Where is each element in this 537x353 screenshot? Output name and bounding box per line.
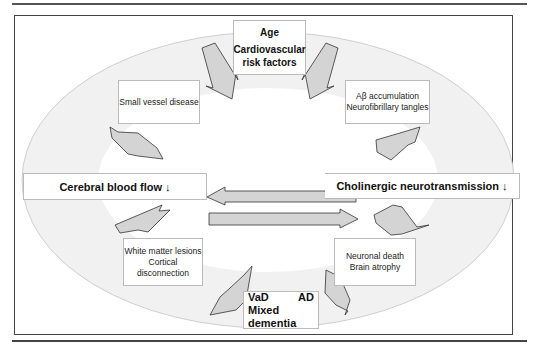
mixed-dementia-label: Mixed dementia [248,304,314,330]
ad-label: AD [298,291,314,304]
bottom-rule [12,340,527,342]
dementia-box: VaD AD Mixed dementia [243,291,319,329]
cholinergic-box: Cholinergic neurotransmission ↓ [325,173,520,199]
brain-atrophy-label: Brain atrophy [350,262,401,273]
vad-label: VaD [248,291,269,304]
white-matter-box: White matter lesions Cortical disconnect… [123,238,203,286]
abeta-label: Aβ accumulation [356,91,419,102]
cerebral-blood-flow-label: Cerebral blood flow ↓ [59,181,170,193]
neuronal-death-label: Neuronal death [346,251,404,262]
age-label: Age [260,26,279,39]
cholinergic-label: Cholinergic neurotransmission ↓ [336,180,507,192]
neuronal-death-box: Neuronal death Brain atrophy [334,238,416,286]
small-vessel-disease-box: Small vessel disease [118,80,200,124]
age-risk-factors-box: Age Cardiovascular risk factors [233,20,306,75]
cardiovascular-label: Cardiovascular [233,43,305,56]
cortical-disconnection-label: Cortical disconnection [124,257,202,279]
cerebral-blood-flow-box: Cerebral blood flow ↓ [23,173,207,200]
tangles-label: Neurofibrillary tangles [346,102,428,113]
white-matter-label: White matter lesions [125,246,202,257]
risk-factors-label: risk factors [243,56,297,69]
abeta-box: Aβ accumulation Neurofibrillary tangles [345,80,430,124]
small-vessel-disease-label: Small vessel disease [119,97,198,108]
